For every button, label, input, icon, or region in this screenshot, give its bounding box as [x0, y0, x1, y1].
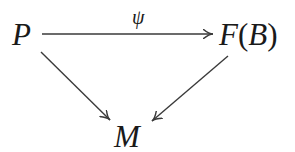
psi-label: ψ	[132, 6, 144, 28]
commutative-diagram: P F(B) M ψ	[0, 0, 295, 152]
edge-label-psi: ψ	[132, 7, 144, 27]
node-f-func: F	[219, 17, 238, 52]
node-f-arg: B	[248, 17, 267, 52]
arrow-p-to-m	[41, 52, 110, 120]
node-p-label: P	[12, 17, 31, 52]
arrow-fb-to-m	[152, 56, 228, 121]
node-f-of-b: F(B)	[219, 19, 278, 50]
node-m: M	[114, 121, 140, 152]
node-p: P	[12, 19, 31, 50]
node-f-close-paren: )	[267, 17, 277, 52]
node-m-label: M	[114, 119, 140, 152]
node-f-open-paren: (	[238, 17, 248, 52]
